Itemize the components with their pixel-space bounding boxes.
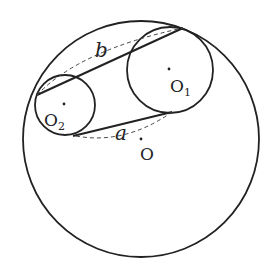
label-o2-subscript: 2: [58, 120, 65, 133]
label-b: b: [95, 38, 108, 62]
center-dot-o1: [168, 68, 171, 71]
label-o1-subscript: 1: [184, 86, 191, 99]
label-o1: O: [170, 76, 184, 96]
upper-tangent-line: [37, 28, 183, 95]
diagram-canvas: b a O O 1 O 2: [0, 0, 270, 271]
center-dot-o: [140, 138, 143, 141]
circles-diagram: b a O O 1 O 2: [0, 0, 270, 271]
label-a: a: [115, 121, 127, 145]
label-o2: O: [44, 110, 58, 130]
label-o: O: [140, 144, 154, 164]
center-dot-o2: [63, 103, 66, 106]
circle-o1: [127, 27, 213, 113]
